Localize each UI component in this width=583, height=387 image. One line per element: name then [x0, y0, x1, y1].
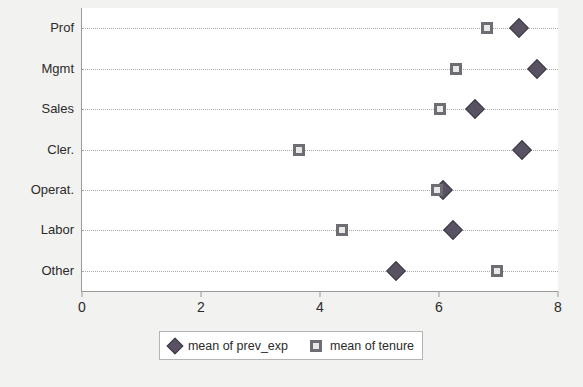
legend-entry-tenure: mean of tenure — [310, 339, 414, 353]
data-point-square-prof — [481, 22, 493, 34]
y-axis-label-mgmt: Mgmt — [42, 60, 75, 78]
x-tick-label-6: 6 — [435, 298, 443, 316]
gridline — [82, 69, 558, 71]
gridline — [82, 271, 558, 273]
legend-entry-prev-exp: mean of prev_exp — [168, 339, 288, 353]
gridline — [82, 150, 558, 152]
gridline — [82, 190, 558, 192]
y-axis-label-cler: Cler. — [47, 141, 74, 159]
gridline — [82, 230, 558, 232]
x-tick-mark — [201, 291, 202, 297]
x-tick-mark — [558, 291, 559, 297]
chart-legend: mean of prev_exp mean of tenure — [159, 331, 423, 360]
data-point-square-mgmt — [450, 63, 462, 75]
y-axis-label-sales: Sales — [41, 100, 74, 118]
legend-label-prev-exp: mean of prev_exp — [188, 339, 288, 353]
x-tick-label-0: 0 — [78, 298, 86, 316]
data-point-square-other — [491, 265, 503, 277]
x-tick-label-4: 4 — [316, 298, 324, 316]
y-axis-label-labor: Labor — [41, 221, 74, 239]
x-tick-mark — [439, 291, 440, 297]
legend-label-tenure: mean of tenure — [330, 339, 414, 353]
x-tick-label-8: 8 — [554, 298, 562, 316]
data-point-square-operat — [431, 184, 443, 196]
data-point-square-sales — [434, 103, 446, 115]
x-tick-label-2: 2 — [197, 298, 205, 316]
x-tick-mark — [82, 291, 83, 297]
diamond-marker-icon — [168, 339, 181, 352]
y-axis-label-other: Other — [41, 262, 74, 280]
y-axis-label-operat: Operat. — [31, 181, 74, 199]
data-point-square-labor — [336, 224, 348, 236]
y-axis-label-prof: Prof — [50, 19, 74, 37]
chart-root: ProfMgmtSalesCler.Operat.LaborOther 0246… — [0, 0, 583, 387]
data-point-square-cler — [293, 144, 305, 156]
x-tick-mark — [320, 291, 321, 297]
square-marker-icon — [310, 339, 323, 352]
gridline — [82, 109, 558, 111]
